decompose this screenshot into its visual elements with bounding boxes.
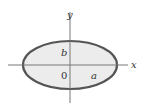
- semi-major-label: a: [91, 70, 97, 81]
- ellipse-diagram: y x b 0 a: [0, 0, 146, 108]
- x-axis-label: x: [131, 59, 137, 70]
- y-axis-label: y: [66, 9, 73, 20]
- semi-minor-label: b: [61, 47, 67, 58]
- origin-label: 0: [61, 70, 67, 81]
